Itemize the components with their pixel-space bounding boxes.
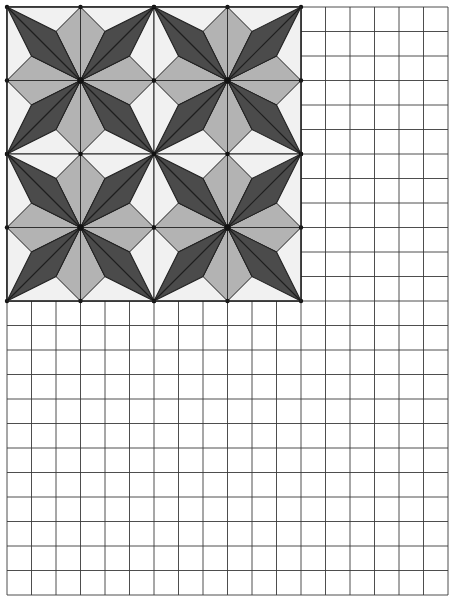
vertex-dot: [224, 224, 230, 230]
vertex-dot: [152, 152, 156, 156]
graph-paper-worksheet: [0, 0, 452, 602]
star-tile: [5, 5, 156, 156]
vertex-dot: [77, 77, 83, 83]
star-tile: [152, 5, 303, 156]
vertex-dot: [225, 152, 229, 156]
star-tile: [5, 152, 156, 303]
vertex-dot: [78, 152, 82, 156]
star-tile: [152, 152, 303, 303]
vertex-dot: [77, 224, 83, 230]
vertex-dot: [152, 78, 156, 82]
star-tiling-pattern: [5, 5, 303, 303]
vertex-dot: [224, 77, 230, 83]
graph-paper: [0, 0, 452, 602]
vertex-dot: [152, 225, 156, 229]
